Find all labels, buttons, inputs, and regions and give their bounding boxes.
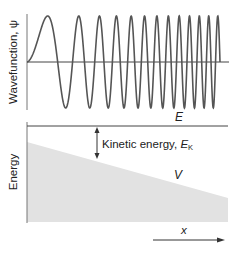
x-direction-arrow	[153, 238, 225, 243]
energy-axis-label: Energy	[7, 154, 19, 191]
psi-axis-label: Wavefunction, ψ	[7, 20, 19, 104]
kinetic-energy-label: Kinetic energy, EK	[102, 138, 193, 152]
potential-label: V	[174, 168, 183, 182]
x-axis-label: x	[180, 224, 188, 236]
potential-region	[27, 142, 228, 222]
kinetic-energy-arrow	[95, 127, 100, 159]
wavefunction-energy-diagram: Wavefunction, ψ E Kinetic energy, EK V E…	[0, 0, 241, 257]
total-energy-label: E	[175, 110, 184, 124]
kinetic-energy-subscript: K	[188, 143, 193, 152]
kinetic-energy-text: Kinetic energy,	[102, 138, 180, 150]
